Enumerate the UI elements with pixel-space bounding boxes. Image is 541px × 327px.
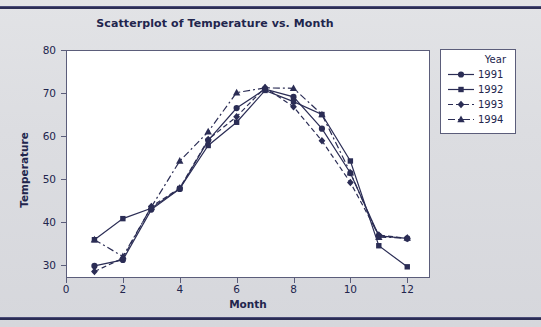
legend-swatch-diamond-icon [446,98,476,111]
data-point-square [348,158,353,163]
x-tick-mark [66,278,67,283]
data-point-circle [234,105,240,111]
x-tick-mark [237,278,238,283]
legend-title: Year [446,54,510,65]
x-tick-mark [180,278,181,283]
data-point-circle [458,71,464,77]
y-tick-mark [61,222,66,223]
series-line-1993 [94,87,407,271]
y-tick-label: 80 [28,44,56,56]
legend-entry-1993[interactable]: 1993 [446,97,510,112]
series-line-1991 [94,89,407,266]
series-line-1994 [94,88,407,257]
data-point-diamond [347,179,354,187]
legend-label: 1994 [476,114,503,125]
legend-entry-1991[interactable]: 1991 [446,67,510,82]
data-point-diamond [91,268,98,276]
y-tick-mark [61,179,66,180]
series-1993 [91,84,411,276]
y-tick-label: 40 [28,216,56,228]
x-tick-label: 8 [279,283,309,295]
series-1991 [91,86,410,269]
plot-series-canvas [66,50,430,278]
data-point-triangle [176,157,183,164]
legend-label: 1992 [476,84,503,95]
y-tick-mark [61,93,66,94]
legend-entries: 1991199219931994 [446,67,510,127]
x-tick-mark [407,278,408,283]
y-tick-mark [61,136,66,137]
y-tick-mark [61,50,66,51]
x-axis-title: Month [66,298,430,310]
series-line-1992 [94,90,407,266]
legend-label: 1993 [476,99,503,110]
data-point-square [120,216,125,221]
y-tick-label: 70 [28,87,56,99]
legend-swatch-circle-icon [446,68,476,81]
legend-label: 1991 [476,69,503,80]
x-tick-mark [294,278,295,283]
y-tick-label: 60 [28,130,56,142]
legend: Year 1991199219931994 [440,49,516,134]
y-tick-label: 50 [28,173,56,185]
data-point-triangle [204,128,211,135]
y-axis-title: Temperature [18,120,30,220]
legend-swatch-triangle-icon [446,113,476,126]
legend-entry-1994[interactable]: 1994 [446,112,510,127]
x-tick-label: 2 [108,283,138,295]
legend-swatch-square-icon [446,83,476,96]
x-tick-label: 0 [51,283,81,295]
data-point-diamond [458,101,465,109]
series-1992 [92,88,410,270]
legend-entry-1992[interactable]: 1992 [446,82,510,97]
x-tick-mark [123,278,124,283]
y-tick-mark [61,265,66,266]
data-point-circle [319,126,325,132]
y-tick-label: 30 [28,259,56,271]
x-tick-label: 6 [222,283,252,295]
x-tick-label: 12 [392,283,422,295]
chart-page: Scatterplot of Temperature vs. Month 304… [0,0,541,327]
data-point-square [405,264,410,269]
x-tick-mark [350,278,351,283]
data-point-square [376,243,381,248]
x-tick-label: 4 [165,283,195,295]
data-point-square [458,87,463,92]
x-tick-label: 10 [335,283,365,295]
